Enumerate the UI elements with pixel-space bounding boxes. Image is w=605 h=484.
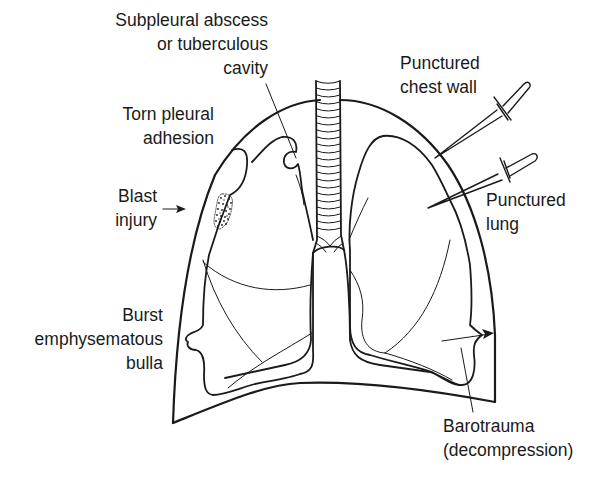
label-subpleural-abscess: Subpleural abscess or tuberculous cavity: [70, 8, 268, 80]
label-blast-injury: Blast injury: [90, 184, 157, 232]
label-punctured-chest-wall: Punctured chest wall: [400, 51, 480, 99]
left-lung: [186, 149, 313, 395]
left-lung-apex: [252, 137, 313, 240]
trachea-rings: [316, 88, 343, 252]
left-lung-fissure-horizontal: [203, 262, 310, 290]
right-lung-fissure-oblique: [385, 240, 450, 353]
leader-blast-injury: [163, 205, 186, 213]
right-lung-medial-curve: [350, 270, 385, 353]
label-torn-pleural-adhesion: Torn pleural adhesion: [90, 102, 214, 150]
label-barotrauma: Barotrauma (decompression): [443, 414, 573, 462]
left-lung-fissure-oblique: [203, 260, 262, 362]
label-punctured-lung: Punctured lung: [486, 188, 566, 236]
label-burst-bulla: Burst emphysematous bulla: [8, 303, 163, 375]
leader-subpleural-abscess: [266, 84, 296, 158]
mediastinum: [313, 247, 460, 385]
